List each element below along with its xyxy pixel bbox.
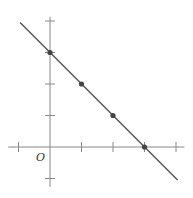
data-point bbox=[110, 113, 115, 118]
data-point bbox=[142, 144, 147, 149]
origin-label: O bbox=[36, 151, 45, 164]
data-point bbox=[47, 50, 52, 55]
data-point bbox=[79, 81, 84, 86]
line-chart: O bbox=[0, 0, 193, 198]
